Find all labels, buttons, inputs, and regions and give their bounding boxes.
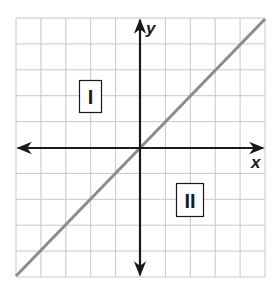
region-ii-label: II	[184, 190, 195, 212]
region-ii-box: II	[177, 184, 204, 217]
region-i-box: I	[80, 81, 102, 113]
x-axis-label: x	[250, 153, 262, 172]
region-i-label: I	[88, 86, 94, 108]
coordinate-plane: y x I II	[0, 0, 276, 288]
y-axis-label: y	[145, 19, 157, 38]
